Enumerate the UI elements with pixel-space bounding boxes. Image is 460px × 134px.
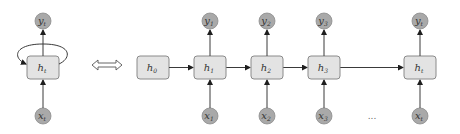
timestep-t: xt ht yt	[404, 13, 436, 124]
timestep-2: x2 h2 y2	[251, 13, 283, 124]
folded-output-node: yt	[35, 13, 51, 29]
timestep-3: x3 h3 y3	[308, 13, 340, 124]
folded-input-node: xt	[35, 108, 51, 124]
initial-hidden-node: h0	[137, 56, 169, 79]
rnn-diagram: xt ht yt h0	[0, 0, 460, 134]
equivalence-arrow-icon	[92, 60, 122, 70]
ellipsis: ...	[368, 111, 377, 121]
timestep-1: x1 h1 y1	[194, 13, 226, 124]
folded-hidden-node: ht	[27, 56, 59, 79]
folded-rnn: xt ht yt	[18, 13, 68, 124]
unfolded-rnn: h0 x1 h1 y1 x2 h2 y2	[137, 13, 436, 124]
